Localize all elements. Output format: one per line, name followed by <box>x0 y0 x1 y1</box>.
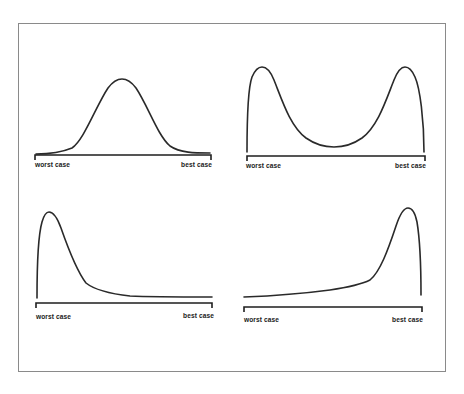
panel-right-skewed-distribution <box>36 212 212 308</box>
distribution-diagrams <box>0 0 464 394</box>
axis-bracket-normal <box>35 155 211 160</box>
label-best-case: best case <box>181 162 212 169</box>
label-best-case: best case <box>395 163 426 170</box>
bimodal-curve <box>247 67 424 152</box>
label-worst-case: worst case <box>246 163 281 170</box>
left-skewed-curve <box>244 208 421 297</box>
normal-curve <box>36 79 210 154</box>
label-best-case: best case <box>183 313 214 320</box>
panel-normal-distribution <box>35 79 211 160</box>
axis-bracket-right-skewed <box>36 303 212 308</box>
panel-bimodal-distribution <box>247 67 425 161</box>
label-worst-case: worst case <box>36 314 71 321</box>
panel-left-skewed-distribution <box>244 208 422 312</box>
axis-bracket-left-skewed <box>244 307 422 312</box>
axis-bracket-bimodal <box>247 156 425 161</box>
label-worst-case: worst case <box>244 317 279 324</box>
label-best-case: best case <box>392 317 423 324</box>
label-worst-case: worst case <box>35 162 70 169</box>
right-skewed-curve <box>37 212 212 298</box>
